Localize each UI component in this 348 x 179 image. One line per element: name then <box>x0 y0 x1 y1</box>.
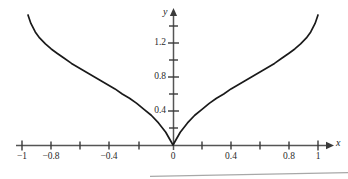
y-tick-label-0p8: 0.8 <box>139 72 166 82</box>
function-plot-figure: −1 −0.8 −0.4 0 0.4 0.8 1 0.4 0.8 1.2 x y <box>0 0 348 179</box>
x-tick-label-neg1: −1 <box>17 152 27 162</box>
x-tick-label-neg0p4: −0.4 <box>100 152 117 162</box>
x-tick-label-0p8: 0.8 <box>283 152 295 162</box>
page-scan-artifact <box>150 173 348 177</box>
y-axis-label: y <box>163 7 167 17</box>
y-axis-arrowhead <box>170 8 177 16</box>
y-tick-label-0p4: 0.4 <box>139 106 166 116</box>
y-tick-label-1p2: 1.2 <box>139 38 166 48</box>
x-tick-label-0p4: 0.4 <box>225 152 237 162</box>
x-tick-label-1: 1 <box>316 152 321 162</box>
x-axis-arrowhead <box>326 142 334 149</box>
x-axis-label: x <box>336 138 340 148</box>
x-tick-label-neg0p8: −0.8 <box>42 152 59 162</box>
x-tick-label-0: 0 <box>171 152 176 162</box>
